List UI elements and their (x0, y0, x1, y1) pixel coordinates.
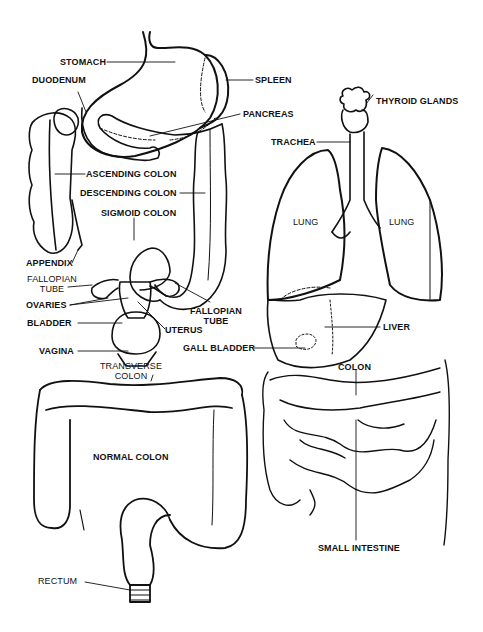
label-sigmoid-colon: SIGMOID COLON (101, 208, 176, 218)
label-uterus: UTERUS (165, 325, 203, 335)
label-thyroid-glands: THYROID GLANDS (376, 96, 458, 106)
label-normal-colon: NORMAL COLON (93, 452, 169, 462)
label-transverse-colon: TRANSVERSE COLON (96, 361, 166, 381)
label-fallopian-tube-right: FALLOPIAN TUBE (190, 306, 242, 326)
label-gall-bladder: GALL BLADDER (183, 343, 255, 353)
label-rectum: RECTUM (38, 576, 77, 586)
label-bladder: BLADDER (27, 318, 72, 328)
label-line: TUBE (26, 284, 78, 294)
label-line: COLON (96, 371, 166, 381)
label-vagina: VAGINA (39, 346, 74, 356)
thyroid-drawing (340, 87, 370, 132)
label-line: TRANSVERSE (96, 361, 166, 371)
label-fallopian-tube-left: FALLOPIAN TUBE (26, 274, 78, 294)
label-duodenum: DUODENUM (32, 75, 86, 85)
label-colon: COLON (338, 362, 371, 372)
label-lung-left: LUNG (293, 217, 318, 227)
label-stomach: STOMACH (60, 57, 106, 67)
label-descending-colon: DESCENDING COLON (80, 188, 177, 198)
reproductive-drawing (92, 248, 179, 366)
label-trachea: TRACHEA (271, 137, 316, 147)
label-lung-right: LUNG (389, 217, 414, 227)
ascending-colon-drawing (29, 109, 82, 254)
label-appendix: APPENDIX (26, 258, 73, 268)
normal-colon-drawing (34, 378, 247, 602)
label-ovaries: OVARIES (26, 300, 67, 310)
label-small-intestine: SMALL INTESTINE (318, 543, 400, 553)
label-line: FALLOPIAN (190, 306, 242, 316)
label-line: FALLOPIAN (26, 274, 78, 284)
stomach-drawing (82, 32, 228, 157)
label-pancreas: PANCREAS (243, 109, 294, 119)
duodenum-pancreas-drawing (82, 108, 222, 161)
leader-lines (55, 62, 380, 590)
label-ascending-colon: ASCENDING COLON (86, 169, 177, 179)
label-spleen: SPLEEN (255, 75, 292, 85)
label-liver: LIVER (383, 322, 410, 332)
